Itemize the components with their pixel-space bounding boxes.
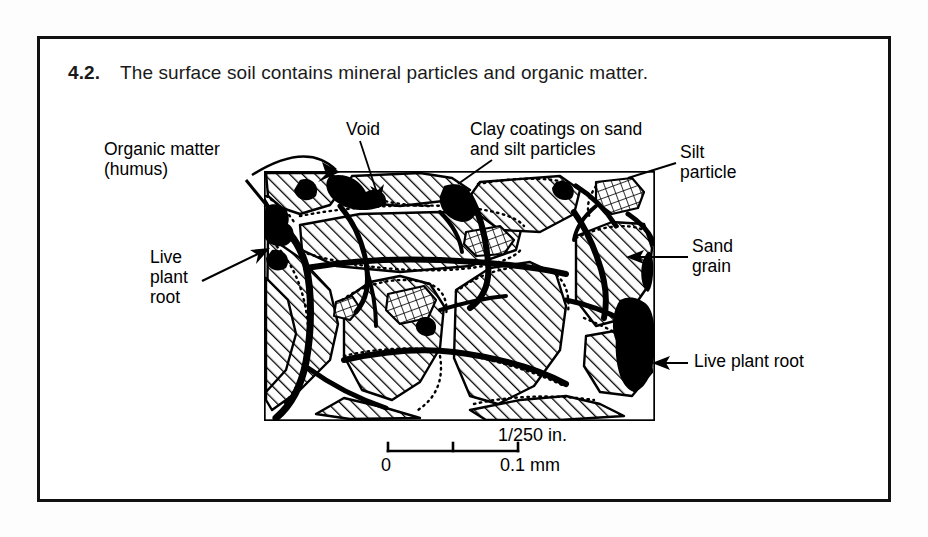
label-silt-particle: Silt particle	[680, 142, 736, 182]
figure-page: 4.2.The surface soil contains mineral pa…	[0, 0, 928, 537]
micrograph-body	[262, 171, 655, 421]
label-void: Void	[346, 119, 380, 139]
label-clay-coatings: Clay coatings on sand and silt particles	[470, 119, 642, 159]
label-sand-grain: Sand grain	[692, 236, 733, 276]
soil-micrograph-diagram	[0, 0, 928, 537]
scale-bar-right-label: 0.1 mm	[500, 455, 560, 475]
label-live-plant-root-right: Live plant root	[694, 351, 804, 371]
live-plant-root-right-leader	[652, 356, 688, 370]
scale-bar-top-label: 1/250 in.	[498, 425, 567, 445]
scale-bar-left-label: 0	[381, 455, 391, 475]
label-live-plant-root-left: Live plant root	[150, 247, 188, 307]
label-organic-matter: Organic matter (humus)	[104, 139, 220, 179]
live-plant-root-left-leader	[202, 248, 270, 281]
